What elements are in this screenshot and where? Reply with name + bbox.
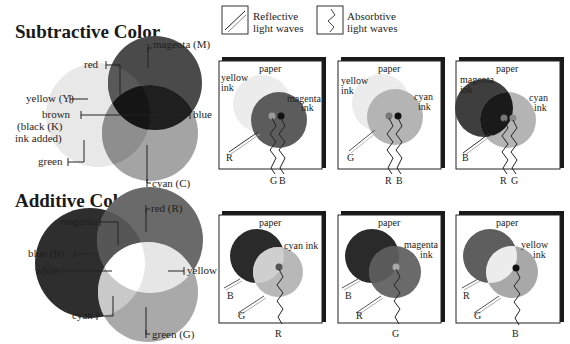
ink-label: cyan ink (284, 240, 318, 251)
subtractive-panel-2: paper yellow ink cyan ink G R B (338, 57, 445, 186)
ink-a-label-2: ink (460, 84, 473, 95)
paper-label: paper (496, 217, 519, 228)
paper-label: paper (496, 63, 519, 74)
label-blue: blue (193, 108, 212, 120)
reflective-label-2: light waves (253, 22, 303, 34)
ink-label-2: ink (420, 249, 433, 260)
label-brown-3: ink added) (15, 132, 62, 145)
subtractive-panel-1: paper yellow ink magenta ink R G B (219, 57, 326, 186)
label-green: green (38, 155, 63, 167)
label-magenta-add: magenta (60, 215, 97, 227)
absorbed-label-2: G (511, 175, 518, 186)
label-green-g: green (G) (152, 328, 195, 341)
paper-label: paper (378, 63, 401, 74)
label-yellow-add: yellow (187, 264, 217, 276)
additive-panel-3: paper yellow ink R G B (456, 211, 564, 339)
ink-b-label-2: ink (534, 102, 547, 113)
absorptive-label-1: Absorbtive (347, 10, 396, 22)
ink-label-2: ink (533, 249, 546, 260)
subtractive-title: Subtractive Color (15, 21, 161, 42)
reflected-label-2: G (238, 310, 245, 321)
ink-b-label-2: ink (418, 101, 431, 112)
absorbed-label-2: B (279, 175, 286, 186)
ink-a-label-2: ink (221, 82, 234, 93)
reflected-label-1: B (345, 290, 352, 301)
reflected-label-2: R (356, 310, 363, 321)
reflective-legend: Reflective light waves (222, 6, 303, 34)
label-cyan-add: cyan (72, 309, 93, 321)
reflected-label-1: B (227, 290, 234, 301)
subtractive-panel-3: paper magenta ink cyan ink B R G (455, 57, 564, 186)
label-magenta: magenta (M) (153, 38, 210, 51)
legend: Reflective light waves Absorbtive light … (222, 6, 397, 34)
absorptive-label-2: light waves (347, 22, 397, 34)
absorbed-label-1: R (385, 175, 392, 186)
label-yellow: yellow (Y) (26, 92, 74, 105)
legend-box (317, 6, 343, 34)
label-white: white (35, 264, 60, 276)
absorbed-label: G (392, 328, 399, 339)
reflected-label: R (226, 152, 233, 163)
additive-panel-1: paper cyan ink B G R (219, 211, 326, 339)
reflected-label: B (462, 152, 469, 163)
absorbed-label-2: B (396, 175, 403, 186)
absorbed-label: R (275, 328, 282, 339)
label-red-r: red (R) (151, 202, 183, 215)
absorbed-label-1: G (270, 175, 277, 186)
ink-a-label-2: ink (341, 85, 354, 96)
label-red: red (84, 58, 99, 70)
absorptive-legend: Absorbtive light waves (317, 6, 397, 34)
ink-b-label-2: ink (301, 102, 314, 113)
reflective-label-1: Reflective (253, 10, 298, 22)
absorbed-label-1: R (500, 175, 507, 186)
label-blue-b: blue (B) (28, 247, 65, 260)
label-brown: brown (42, 108, 71, 120)
paper-label: paper (259, 217, 282, 228)
paper-label: paper (259, 63, 282, 74)
reflected-label: G (347, 152, 354, 163)
reflected-label-1: R (463, 290, 470, 301)
paper-label: paper (378, 217, 401, 228)
reflected-label-2: G (474, 310, 481, 321)
absorbed-label: B (512, 328, 519, 339)
additive-panel-2: paper magenta ink B R G (338, 211, 445, 339)
color-theory-diagram: Reflective light waves Absorbtive light … (0, 0, 570, 344)
